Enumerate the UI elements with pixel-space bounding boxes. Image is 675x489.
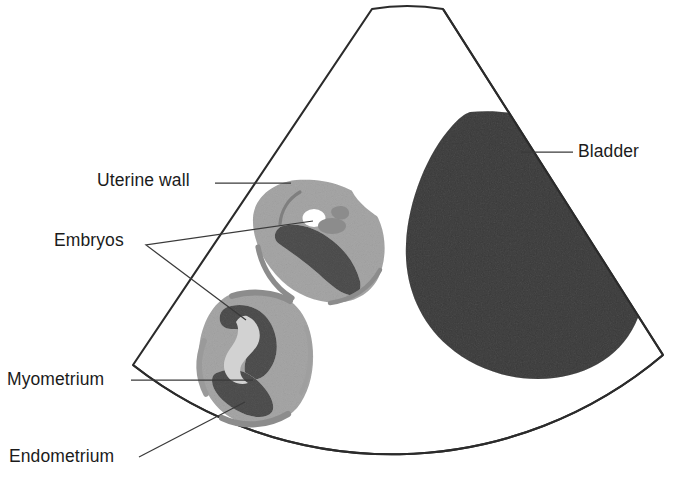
label-uterine-wall: Uterine wall: [97, 172, 190, 190]
label-endometrium: Endometrium: [9, 448, 114, 466]
lower-uterus: [199, 291, 313, 425]
ultrasound-diagram: Uterine wall Embryos Myometrium Endometr…: [0, 0, 675, 489]
upper-uterus: [253, 180, 385, 303]
upper-embryo-body: [318, 218, 346, 234]
leader-endometrium: [139, 402, 245, 457]
label-embryos: Embryos: [54, 232, 124, 250]
label-bladder: Bladder: [578, 143, 639, 161]
label-myometrium: Myometrium: [7, 371, 104, 389]
